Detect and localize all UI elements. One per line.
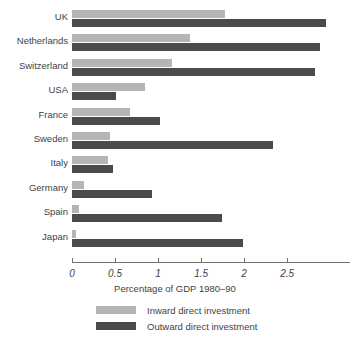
bar-spain-outward (72, 214, 222, 222)
bar-group (72, 59, 350, 79)
bar-group (72, 205, 350, 225)
bar-switzerland-outward (72, 68, 315, 76)
category-label-italy: Italy (0, 158, 68, 168)
axis-title: Percentage of GDP 1980–90 (0, 283, 350, 294)
bar-group (72, 108, 350, 128)
legend-label-outward: Outward direct investment (147, 321, 257, 332)
category-label-spain: Spain (0, 207, 68, 217)
axis-tick-label: 0.5 (108, 268, 122, 279)
category-label-japan: Japan (0, 232, 68, 242)
bar-group (72, 34, 350, 54)
chart-legend: Inward direct investmentOutward direct i… (96, 303, 326, 335)
axis-tick-label: 2 (241, 268, 247, 279)
axis-tick-label: 0 (69, 268, 75, 279)
bar-group (72, 83, 350, 103)
bar-germany-outward (72, 190, 152, 198)
bar-germany-inward (72, 181, 84, 189)
bar-spain-inward (72, 205, 79, 213)
category-label-france: France (0, 110, 68, 120)
bar-japan-inward (72, 230, 76, 238)
axis-tick (158, 258, 159, 263)
bar-group (72, 156, 350, 176)
bar-switzerland-inward (72, 59, 172, 67)
bar-usa-inward (72, 83, 145, 91)
bar-group (72, 181, 350, 201)
axis-tick (72, 258, 73, 263)
bar-sweden-outward (72, 141, 273, 149)
bar-france-inward (72, 108, 130, 116)
bar-uk-inward (72, 10, 225, 18)
axis-tick-label: 1 (155, 268, 161, 279)
axis-tick-label: 2.5 (280, 268, 294, 279)
legend-item-inward: Inward direct investment (96, 303, 326, 317)
category-label-uk: UK (0, 12, 68, 22)
bar-usa-outward (72, 92, 116, 100)
legend-swatch-inward (96, 306, 136, 314)
legend-item-outward: Outward direct investment (96, 319, 326, 333)
axis-tick-label: 1.5 (194, 268, 208, 279)
bar-france-outward (72, 117, 160, 125)
bar-uk-outward (72, 19, 326, 27)
axis-tick (201, 258, 202, 263)
category-axis: UKNetherlandsSwitzerlandUSAFranceSwedenI… (0, 9, 68, 253)
bar-group (72, 230, 350, 250)
legend-label-inward: Inward direct investment (147, 305, 250, 316)
axis-line (72, 262, 350, 263)
bar-netherlands-outward (72, 43, 320, 51)
axis-tick (244, 258, 245, 263)
axis-tick (115, 258, 116, 263)
bar-sweden-inward (72, 132, 110, 140)
bar-group (72, 132, 350, 152)
category-label-usa: USA (0, 85, 68, 95)
category-label-germany: Germany (0, 183, 68, 193)
bar-italy-inward (72, 156, 108, 164)
category-label-switzerland: Switzerland (0, 61, 68, 71)
category-label-sweden: Sweden (0, 134, 68, 144)
axis-tick (287, 258, 288, 263)
bar-japan-outward (72, 239, 243, 247)
bar-netherlands-inward (72, 34, 190, 42)
legend-swatch-outward (96, 322, 136, 330)
plot-area (72, 9, 350, 253)
category-label-netherlands: Netherlands (0, 36, 68, 46)
bar-group (72, 10, 350, 30)
bar-chart: UKNetherlandsSwitzerlandUSAFranceSwedenI… (0, 0, 350, 339)
bar-italy-outward (72, 165, 113, 173)
